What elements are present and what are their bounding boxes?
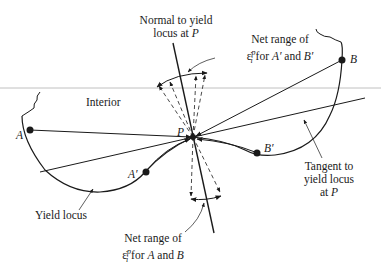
tangent-label-line3: at P [296, 186, 362, 199]
yield-locus-left-wavy [22, 92, 40, 116]
normal-label-line2: locus at P [128, 27, 224, 40]
net-range-top-label: Net range of ε̇pi for A′ and B′ [220, 33, 340, 67]
line-B-to-P [196, 60, 342, 136]
yield-locus-leader-line [79, 189, 93, 210]
point-P-marker [190, 134, 196, 140]
net-range-top-line1: Net range of [220, 33, 340, 46]
point-Bp-marker [254, 150, 261, 157]
point-Bp-label: B′ [264, 142, 274, 155]
tangent-leader-line [304, 120, 322, 158]
tangent-label-line2: yield locus [296, 173, 362, 186]
net-range-bottom-line1: Net range of [108, 232, 198, 245]
point-Ap-label: A′ [128, 168, 138, 181]
line-A-to-P [30, 130, 191, 137]
normal-label: Normal to yield locus at P [128, 14, 224, 40]
path-Ap-to-P [147, 139, 190, 170]
net-range-bottom-line2: ε̇pi for A and B [108, 245, 198, 266]
point-P-label: P [177, 126, 184, 139]
point-A-marker [27, 127, 34, 134]
tangent-label: Tangent to yield locus at P [296, 160, 362, 199]
net-range-top-line2: ε̇pi for A′ and B′ [220, 46, 340, 67]
point-A-label: A [16, 129, 23, 142]
point-Ap-marker [143, 169, 150, 176]
yield-locus-label: Yield locus [35, 209, 87, 222]
bottom-leader-line [185, 203, 204, 232]
interior-label: Interior [86, 96, 120, 109]
net-range-bottom-label: Net range of ε̇pi for A and B [108, 232, 198, 266]
normal-label-line1: Normal to yield [128, 14, 224, 27]
tangent-label-line1: Tangent to [296, 160, 362, 173]
point-B-label: B [350, 53, 357, 66]
top-leader-line [188, 58, 215, 72]
